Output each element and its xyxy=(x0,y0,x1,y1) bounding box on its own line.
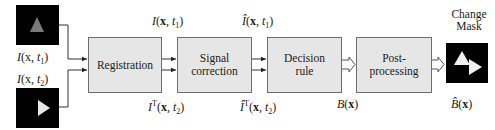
fn-symbol: B xyxy=(337,97,344,111)
decision-rule-block: Decision rule xyxy=(267,37,342,93)
var-symbol: x xyxy=(250,14,256,28)
registration-output-bottom-label: IT(x, t2) xyxy=(148,97,184,119)
change-mask-output-label: B̂(x) xyxy=(451,97,472,111)
time-subscript: 1 xyxy=(265,21,269,30)
gray-up-triangle-icon xyxy=(16,5,59,45)
time-subscript: 2 xyxy=(268,107,272,116)
white-right-triangle-icon xyxy=(16,88,59,128)
change-mask-caption: Change Mask xyxy=(443,8,495,32)
label-line-2: correction xyxy=(191,65,238,77)
signal-correction-block: Signal correction xyxy=(177,37,252,93)
registration-block: Registration xyxy=(88,37,162,93)
registration-label: Registration xyxy=(97,59,153,72)
decision-rule-output-label: B(x) xyxy=(337,97,358,111)
registration-output-top-label: I(x, t1) xyxy=(152,14,183,33)
transform-superscript: T xyxy=(244,99,249,108)
var-symbol: x xyxy=(160,14,166,28)
change-mask-icon xyxy=(446,43,488,83)
change-mask-image xyxy=(446,43,488,83)
signal-correction-output-bottom-label: ÎT(x, t2) xyxy=(240,97,276,119)
var-symbol: x xyxy=(25,50,31,64)
input-label-t1: I(x, t1) xyxy=(17,50,48,69)
signal-correction-label: Signal correction xyxy=(191,52,238,78)
decision-rule-label: Decision rule xyxy=(284,52,325,78)
var-symbol: x xyxy=(25,72,31,86)
fn-symbol: I xyxy=(17,72,21,86)
label-line-2: rule xyxy=(296,65,314,77)
var-symbol: x xyxy=(253,100,259,114)
time-subscript: 2 xyxy=(176,107,180,116)
post-processing-block: Post- processing xyxy=(356,37,432,93)
time-subscript: 1 xyxy=(40,57,44,66)
label-line-1: Decision xyxy=(284,52,325,64)
var-symbol: x xyxy=(462,97,468,111)
var-symbol: x xyxy=(161,100,167,114)
fn-symbol: I xyxy=(17,50,21,64)
time-subscript: 1 xyxy=(175,21,179,30)
post-processing-label: Post- processing xyxy=(369,52,418,78)
signal-correction-output-top-label: Î(x, t1) xyxy=(242,14,273,33)
fn-symbol: B̂ xyxy=(451,97,458,111)
label-line-1: Signal xyxy=(200,52,229,64)
transform-superscript: T xyxy=(152,99,157,108)
var-symbol: x xyxy=(348,97,354,111)
input-image-t2 xyxy=(16,88,59,128)
caption-line-2: Mask xyxy=(456,20,482,32)
caption-line-1: Change xyxy=(451,8,486,20)
fn-symbol: I xyxy=(152,14,156,28)
label-line-2: processing xyxy=(369,65,418,77)
fn-symbol: Î xyxy=(242,14,246,28)
label-line-1: Post- xyxy=(382,52,406,64)
input-image-t1 xyxy=(16,5,59,45)
